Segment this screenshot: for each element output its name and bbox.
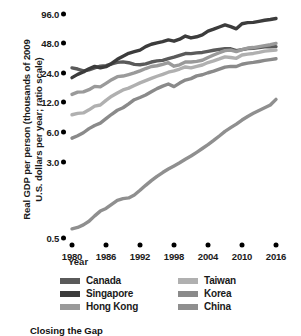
series-line-taiwan [72, 50, 276, 115]
y-tick-dot [61, 130, 66, 135]
x-tick-label: 2016 [266, 251, 286, 262]
y-axis-ticks: 0.53.06.012.024.048.096.0 [0, 0, 68, 246]
y-tick-dot [61, 70, 66, 75]
y-tick-label: 24.0 [41, 67, 59, 78]
y-tick-dot [61, 236, 66, 241]
x-tick-dot [274, 243, 279, 248]
x-tick-dot [206, 243, 211, 248]
x-tick-label: 1992 [130, 251, 150, 262]
x-tick-dot [240, 243, 245, 248]
legend-item-china[interactable]: China [178, 301, 288, 312]
y-tick-label: 0.5 [46, 233, 59, 244]
legend-label: Canada [86, 275, 121, 286]
legend-swatch-icon [178, 291, 198, 297]
legend-item-hong-kong[interactable]: Hong Kong [60, 301, 170, 312]
legend-swatch-icon [60, 291, 80, 297]
legend-item-canada[interactable]: Canada [60, 275, 170, 286]
legend-swatch-icon [178, 278, 198, 284]
x-tick-label: 2010 [232, 251, 252, 262]
series-line-china [72, 99, 276, 228]
chart-legend: CanadaTaiwanSingaporeKoreaHong KongChina [60, 274, 288, 314]
y-tick-dot [61, 159, 66, 164]
x-tick-dot [104, 243, 109, 248]
legend-label: Korea [204, 288, 231, 299]
y-tick-dot [61, 11, 66, 16]
x-axis-title: Year [68, 256, 88, 267]
legend-label: China [204, 301, 231, 312]
series-lines [68, 8, 282, 238]
legend-label: Hong Kong [86, 301, 138, 312]
legend-label: Singapore [86, 288, 133, 299]
legend-swatch-icon [178, 304, 198, 310]
legend-item-taiwan[interactable]: Taiwan [178, 275, 288, 286]
x-tick-dot [172, 243, 177, 248]
y-tick-dot [61, 41, 66, 46]
y-tick-label: 12.0 [41, 97, 59, 108]
figure-caption: Closing the Gap [30, 325, 103, 336]
x-tick-dot [138, 243, 143, 248]
legend-label: Taiwan [204, 275, 236, 286]
x-tick-label: 1998 [164, 251, 184, 262]
y-tick-label: 6.0 [46, 127, 59, 138]
y-tick-dot [61, 100, 66, 105]
legend-item-korea[interactable]: Korea [178, 288, 288, 299]
y-tick-label: 48.0 [41, 38, 59, 49]
legend-swatch-icon [60, 278, 80, 284]
x-tick-label: 2004 [198, 251, 218, 262]
plot-area [68, 8, 282, 238]
x-tick-dot [70, 243, 75, 248]
legend-item-singapore[interactable]: Singapore [60, 288, 170, 299]
y-tick-label: 96.0 [41, 8, 59, 19]
legend-swatch-icon [60, 304, 80, 310]
x-tick-label: 1986 [96, 251, 116, 262]
y-tick-label: 3.0 [46, 156, 59, 167]
